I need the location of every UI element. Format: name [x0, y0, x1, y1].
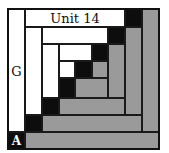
log-cabin-diagram: Unit 14GA — [0, 0, 169, 153]
outer-frame — [7, 8, 160, 150]
